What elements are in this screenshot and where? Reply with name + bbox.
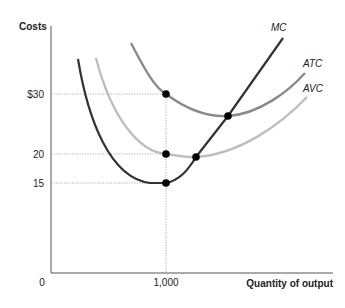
intersection-dots: [162, 90, 232, 187]
dot-mc-atc: [224, 112, 232, 120]
y-tick-20: 20: [33, 149, 45, 160]
y-tick-30: $30: [27, 89, 44, 100]
atc-curve: [131, 43, 305, 116]
avc-label: AVC: [302, 83, 324, 94]
cost-curves-chart: Costs Quantity of output 0 1,000 $30 20 …: [0, 0, 345, 308]
dot-atc-1000: [162, 90, 170, 98]
avc-curve: [96, 58, 307, 157]
x-axis-title: Quantity of output: [246, 278, 333, 289]
dot-mc-avc: [192, 153, 200, 161]
origin-label: 0: [39, 277, 45, 288]
x-tick-1000: 1,000: [153, 277, 178, 288]
dot-avc-1000: [162, 150, 170, 158]
dot-mc-1000: [162, 179, 170, 187]
mc-label: MC: [271, 22, 287, 33]
y-tick-15: 15: [33, 178, 45, 189]
atc-label: ATC: [302, 58, 323, 69]
y-axis-title: Costs: [19, 21, 47, 32]
